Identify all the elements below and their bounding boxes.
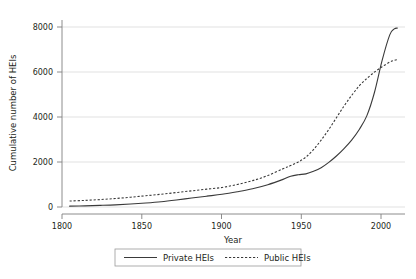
y-tick-label-6000: 6000 (33, 68, 53, 77)
y-axis: 8000 6000 4000 2000 0 Cumulative number … (8, 20, 62, 212)
x-axis: 1800 1850 1900 1950 2000 Year (52, 214, 405, 245)
series-line-public-heis (70, 60, 398, 201)
y-tick-label-0: 0 (48, 203, 53, 212)
cumulative-hei-line-chart: 8000 6000 4000 2000 0 Cumulative number … (0, 0, 416, 279)
x-tick-label-1950: 1950 (291, 222, 311, 231)
y-axis-title: Cumulative number of HEIs (8, 54, 18, 171)
y-tick-label-8000: 8000 (33, 23, 53, 32)
x-tick-label-1850: 1850 (132, 222, 152, 231)
x-tick-label-1900: 1900 (211, 222, 231, 231)
x-axis-title: Year (223, 235, 243, 245)
legend: Private HEIs Public HEIs (115, 249, 311, 266)
x-tick-label-1800: 1800 (52, 222, 72, 231)
gridlines (62, 27, 405, 207)
legend-label-private: Private HEIs (163, 253, 215, 263)
y-tick-label-4000: 4000 (33, 113, 53, 122)
y-tick-label-2000: 2000 (33, 158, 53, 167)
x-tick-label-2000: 2000 (371, 222, 391, 231)
legend-label-public: Public HEIs (264, 253, 311, 263)
